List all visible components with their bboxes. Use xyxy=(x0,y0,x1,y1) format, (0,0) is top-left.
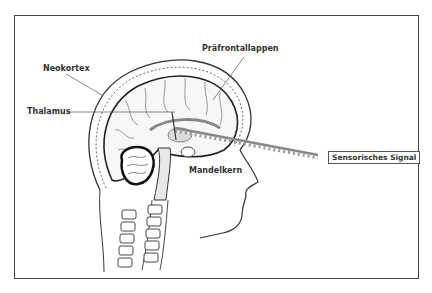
label-sensorisches-signal: Sensorisches Signal xyxy=(328,151,420,164)
spine xyxy=(118,200,168,270)
label-neokortex: Neokortex xyxy=(43,64,90,73)
label-praefrontallappen: Präfrontallappen xyxy=(202,44,279,53)
leader-neokortex xyxy=(66,74,102,95)
neck-back xyxy=(100,190,104,272)
cerebellum xyxy=(122,147,154,184)
leader-praefrontallappen xyxy=(213,57,244,100)
amygdala-structure xyxy=(181,147,195,157)
face-profile xyxy=(200,150,258,238)
brainstem xyxy=(154,148,171,200)
label-thalamus: Thalamus xyxy=(27,107,70,116)
label-mandelkern: Mandelkern xyxy=(189,166,242,175)
